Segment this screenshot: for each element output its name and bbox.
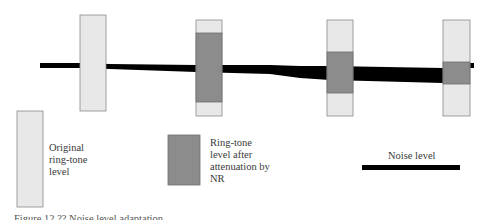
legend-attenuated-line-4: NR — [210, 173, 270, 185]
legend-original-line-2: ring-tone — [49, 154, 88, 166]
figure-caption: Figure 12.?? Noise level adaptation — [14, 213, 163, 220]
legend-attenuated-label: Ring-tone level after attenuation by NR — [210, 137, 270, 185]
legend-original-swatch — [17, 111, 43, 207]
diagram-canvas — [0, 0, 485, 220]
stage-2-attenuated-bar — [196, 33, 222, 102]
stage-3-attenuated-bar — [327, 52, 353, 93]
stage-1-original-bar — [80, 15, 106, 111]
legend-noise-swatch — [362, 165, 460, 170]
legend-original-line-3: level — [49, 166, 88, 178]
legend-attenuated-line-2: level after — [210, 149, 270, 161]
legend-attenuated-swatch — [168, 135, 200, 185]
legend-original-label: Original ring-tone level — [49, 142, 88, 178]
legend-attenuated-line-3: attenuation by — [210, 161, 270, 173]
legend-noise-label: Noise level — [388, 150, 436, 162]
legend-attenuated-line-1: Ring-tone — [210, 137, 270, 149]
legend-original-line-1: Original — [49, 142, 88, 154]
noise-tail — [470, 63, 474, 68]
stage-4-attenuated-bar — [443, 62, 470, 84]
